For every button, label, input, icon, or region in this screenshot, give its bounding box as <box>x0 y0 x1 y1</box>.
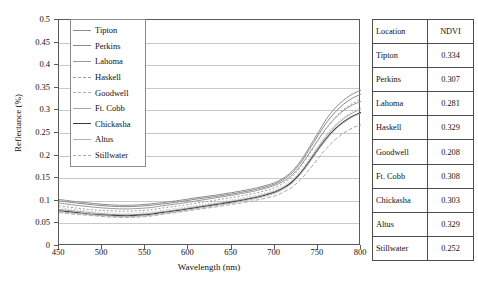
table-header-location: Location <box>373 20 428 44</box>
table-row: Lahoma0.281 <box>373 92 474 116</box>
x-axis-title: Wavelength (nm) <box>58 262 360 272</box>
cell-location: Lahoma <box>373 92 428 116</box>
figure-root: 00.050.10.150.20.250.30.350.40.450.5 450… <box>0 0 478 294</box>
cell-ndvi: 0.329 <box>428 212 474 236</box>
legend-item-ft-cobb[interactable]: Ft. Cobb <box>73 101 143 117</box>
cell-location: Perkins <box>373 68 428 92</box>
legend-line-swatch <box>73 105 91 113</box>
x-tick-label: 550 <box>138 248 151 257</box>
table-row: Chickasha0.303 <box>373 188 474 212</box>
legend-line-swatch <box>73 89 91 97</box>
reflectance-chart: 00.050.10.150.20.250.30.350.40.450.5 450… <box>0 0 368 294</box>
table-header-row: Location NDVI <box>373 20 474 44</box>
table-row: Tipton0.334 <box>373 44 474 68</box>
legend-item-label: Lahoma <box>95 57 123 66</box>
y-tick-mark <box>54 64 58 65</box>
legend-item-label: Tipton <box>95 26 117 35</box>
table-row: Haskell0.329 <box>373 116 474 140</box>
ndvi-table: Location NDVI Tipton0.334Perkins0.307Lah… <box>372 19 474 261</box>
legend-item-label: Chickasha <box>95 120 130 129</box>
cell-location: Altus <box>373 212 428 236</box>
legend-item-label: Goodwell <box>95 89 129 98</box>
legend-line-swatch <box>73 27 91 35</box>
y-tick-label: 0.3 <box>0 105 50 114</box>
cell-location: Chickasha <box>373 188 428 212</box>
legend-line-swatch <box>73 74 91 82</box>
chart-legend: TiptonPerkinsLahomaHaskellGoodwellFt. Co… <box>70 19 146 167</box>
y-tick-mark <box>54 87 58 88</box>
legend-item-altus[interactable]: Altus <box>73 132 143 148</box>
legend-item-goodwell[interactable]: Goodwell <box>73 85 143 101</box>
legend-item-label: Stillwater <box>95 151 128 160</box>
legend-item-stillwater[interactable]: Stillwater <box>73 148 143 164</box>
legend-item-label: Perkins <box>95 42 121 51</box>
x-tick-label: 450 <box>52 248 65 257</box>
x-tick-label: 750 <box>310 248 323 257</box>
table-row: Ft. Cobb0.308 <box>373 164 474 188</box>
cell-ndvi: 0.329 <box>428 116 474 140</box>
y-tick-label: 0.2 <box>0 151 50 160</box>
y-tick-mark <box>54 19 58 20</box>
y-tick-mark <box>54 42 58 43</box>
cell-location: Haskell <box>373 116 428 140</box>
cell-ndvi: 0.303 <box>428 188 474 212</box>
x-tick-label: 500 <box>95 248 108 257</box>
table-row: Perkins0.307 <box>373 68 474 92</box>
table-header-ndvi: NDVI <box>428 20 474 44</box>
legend-line-swatch <box>73 136 91 144</box>
cell-ndvi: 0.307 <box>428 68 474 92</box>
legend-item-perkins[interactable]: Perkins <box>73 39 143 55</box>
y-tick-label: 0.25 <box>0 128 50 137</box>
x-tick-label: 800 <box>354 248 367 257</box>
legend-item-label: Ft. Cobb <box>95 104 125 113</box>
y-tick-label: 0.45 <box>0 38 50 47</box>
legend-item-lahoma[interactable]: Lahoma <box>73 54 143 70</box>
cell-location: Ft. Cobb <box>373 164 428 188</box>
y-tick-mark <box>54 177 58 178</box>
legend-item-haskell[interactable]: Haskell <box>73 70 143 86</box>
y-tick-label: 0 <box>0 241 50 250</box>
y-tick-label: 0.05 <box>0 218 50 227</box>
y-tick-label: 0.5 <box>0 15 50 24</box>
cell-location: Tipton <box>373 44 428 68</box>
x-tick-label: 700 <box>267 248 280 257</box>
y-tick-mark <box>54 132 58 133</box>
x-tick-label: 650 <box>224 248 237 257</box>
y-tick-label: 0.35 <box>0 83 50 92</box>
legend-line-swatch <box>73 152 91 160</box>
y-tick-mark <box>54 109 58 110</box>
cell-location: Goodwell <box>373 140 428 164</box>
legend-item-tipton[interactable]: Tipton <box>73 23 143 39</box>
cell-location: Stillwater <box>373 236 428 260</box>
y-tick-label: 0.1 <box>0 196 50 205</box>
cell-ndvi: 0.334 <box>428 44 474 68</box>
table-row: Goodwell0.208 <box>373 140 474 164</box>
table-row: Stillwater0.252 <box>373 236 474 260</box>
y-tick-label: 0.4 <box>0 60 50 69</box>
cell-ndvi: 0.281 <box>428 92 474 116</box>
y-tick-mark <box>54 155 58 156</box>
legend-item-label: Altus <box>95 135 113 144</box>
cell-ndvi: 0.252 <box>428 236 474 260</box>
x-tick-label: 600 <box>181 248 194 257</box>
cell-ndvi: 0.308 <box>428 164 474 188</box>
table-row: Altus0.329 <box>373 212 474 236</box>
y-tick-mark <box>54 222 58 223</box>
legend-line-swatch <box>73 58 91 66</box>
legend-item-label: Haskell <box>95 73 121 82</box>
cell-ndvi: 0.208 <box>428 140 474 164</box>
y-tick-label: 0.15 <box>0 173 50 182</box>
legend-item-chickasha[interactable]: Chickasha <box>73 117 143 133</box>
y-tick-mark <box>54 200 58 201</box>
legend-line-swatch <box>73 120 91 128</box>
y-axis-title: Reflectance (%) <box>13 53 23 193</box>
legend-line-swatch <box>73 42 91 50</box>
